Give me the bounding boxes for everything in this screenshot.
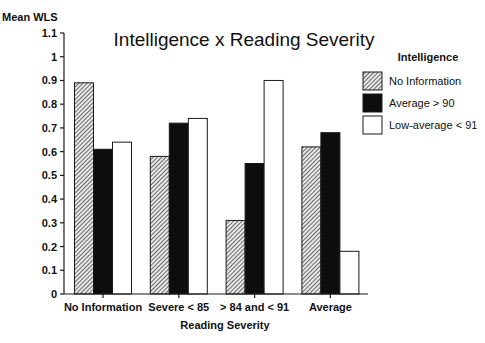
bar-hatched: [150, 156, 169, 294]
bars-group: [75, 80, 359, 294]
y-tick-label: 0.9: [42, 74, 57, 86]
chart-title: Intelligence x Reading Severity: [114, 29, 375, 50]
x-category-label: No Information: [64, 301, 142, 313]
bar-white: [188, 118, 207, 294]
y-tick-label: 1.1: [42, 27, 57, 39]
y-axis-label: Mean WLS: [2, 11, 58, 23]
y-tick-label: 0.1: [42, 264, 57, 276]
legend: Intelligence No InformationAverage > 90L…: [363, 51, 477, 134]
bar-hatched: [226, 220, 245, 294]
bar-hatched: [75, 83, 94, 294]
legend-swatch-hatched: [363, 72, 382, 90]
bar-chart: Intelligence x Reading Severity Mean WLS…: [0, 0, 485, 343]
bar-black: [245, 164, 264, 295]
y-tick-label: 0.2: [42, 241, 57, 253]
bar-black: [169, 123, 188, 294]
legend-swatch-white: [363, 116, 382, 134]
x-axis-categories: No InformationSevere < 85> 84 and < 91Av…: [64, 294, 352, 313]
x-category-label: Average: [309, 301, 352, 313]
y-tick-label: 0.4: [42, 193, 58, 205]
x-axis-label: Reading Severity: [180, 319, 270, 331]
bar-black: [94, 149, 113, 294]
y-tick-label: 0.5: [42, 169, 57, 181]
legend-swatch-black: [363, 94, 382, 112]
bar-black: [321, 133, 340, 294]
bar-white: [264, 80, 283, 294]
legend-item-label: No Information: [389, 75, 461, 87]
y-tick-label: 0.6: [42, 146, 57, 158]
y-tick-label: 1: [51, 51, 57, 63]
bar-white: [340, 251, 359, 294]
bar-hatched: [302, 147, 321, 294]
y-tick-label: 0.7: [42, 122, 57, 134]
y-tick-label: 0.8: [42, 98, 57, 110]
y-axis-ticks: 00.10.20.30.40.50.60.70.80.911.1: [42, 27, 64, 300]
legend-title: Intelligence: [398, 51, 459, 63]
legend-item-label: Average > 90: [389, 97, 455, 109]
legend-item-label: Low-average < 91: [389, 119, 477, 131]
x-category-label: Severe < 85: [148, 301, 209, 313]
x-category-label: > 84 and < 91: [220, 301, 289, 313]
y-tick-label: 0.3: [42, 217, 57, 229]
y-tick-label: 0: [51, 288, 57, 300]
bar-white: [113, 142, 132, 294]
